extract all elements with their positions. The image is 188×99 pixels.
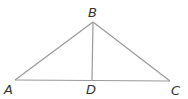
label-c: C bbox=[171, 83, 181, 98]
segment-bc bbox=[93, 22, 170, 81]
segment-ab bbox=[15, 22, 93, 80]
label-a: A bbox=[3, 82, 13, 97]
label-b: B bbox=[88, 5, 97, 20]
label-d: D bbox=[86, 82, 96, 97]
triangle-diagram: A B D C bbox=[0, 0, 188, 99]
segment-bd bbox=[92, 22, 93, 80]
segment-ac bbox=[15, 80, 170, 81]
